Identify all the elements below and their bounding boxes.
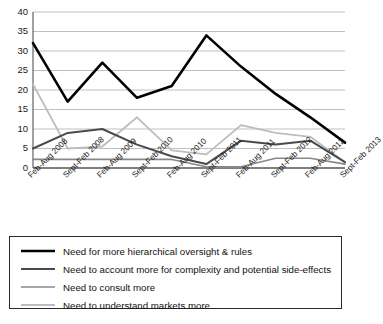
- legend-item-1: Need to account more for complexity and …: [10, 260, 341, 278]
- y-tick-label: 30: [6, 46, 28, 56]
- chart-legend: Need for more hierarchical oversight & r…: [9, 236, 342, 309]
- legend-swatch-line-1: [21, 264, 55, 274]
- legend-label-0: Need for more hierarchical oversight & r…: [63, 246, 252, 257]
- legend-swatch-line-0: [21, 246, 55, 256]
- y-tick-label: 40: [6, 7, 28, 17]
- series-line: [33, 35, 345, 142]
- legend-item-0: Need for more hierarchical oversight & r…: [10, 242, 341, 260]
- legend-label-1: Need to account more for complexity and …: [63, 264, 331, 275]
- legend-label-3: Need to understand markets more: [63, 300, 210, 311]
- y-tick-label: 5: [6, 143, 28, 153]
- y-tick-label: 25: [6, 65, 28, 75]
- y-tick-label: 10: [6, 124, 28, 134]
- legend-item-2: Need to consult more: [10, 278, 341, 296]
- y-tick-label: 0: [6, 163, 28, 173]
- y-tick-label: 20: [6, 85, 28, 95]
- legend-swatch-line-2: [21, 282, 55, 292]
- legend-swatch-line-3: [21, 300, 55, 310]
- y-tick-label: 35: [6, 26, 28, 36]
- legend-item-3: Need to understand markets more: [10, 296, 341, 314]
- legend-label-2: Need to consult more: [63, 282, 155, 293]
- y-tick-label: 15: [6, 104, 28, 114]
